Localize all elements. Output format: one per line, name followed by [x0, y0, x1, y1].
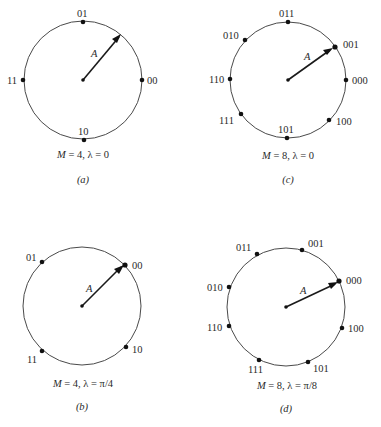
symbol-point-000: [344, 78, 349, 83]
symbol-label: 11: [7, 75, 17, 86]
symbol-point-11: [40, 349, 45, 354]
symbol-point-10: [82, 138, 87, 143]
symbol-point-011: [255, 252, 260, 257]
panel-d: A 000 001 011 010 110 111 101 100 M = 8,…: [207, 238, 364, 415]
panel-caption: M = 4, λ = 0: [56, 149, 109, 160]
symbol-point-010: [227, 285, 232, 290]
symbol-point-010: [243, 38, 248, 43]
panel-tag: (a): [77, 174, 90, 186]
symbol-point-101: [285, 136, 290, 141]
symbol-point-00: [122, 262, 127, 267]
vector-label: A: [85, 283, 93, 294]
symbol-point-01: [81, 20, 86, 25]
symbol-label: 10: [78, 126, 89, 137]
symbol-label: 011: [279, 8, 294, 19]
vector-label: A: [299, 285, 307, 296]
symbol-point-000: [336, 278, 341, 283]
panel-c: A 000 001 011 010 110 111 101 100 M = 8,…: [209, 8, 368, 186]
symbol-point-011: [286, 20, 291, 25]
symbol-label: 110: [209, 74, 224, 85]
origin-dot: [81, 78, 85, 82]
symbol-point-101: [306, 360, 311, 365]
symbol-point-100: [327, 118, 332, 123]
panel-a: A 00 01 11 10 M = 4, λ = 0 (a): [7, 8, 158, 186]
symbol-label: 010: [207, 282, 223, 293]
origin-dot: [80, 304, 84, 308]
symbol-point-100: [340, 326, 345, 331]
symbol-point-001: [300, 248, 305, 253]
panel-tag: (b): [76, 401, 89, 413]
symbol-point-11: [21, 78, 26, 83]
panel-caption: M = 8, λ = 0: [261, 150, 314, 161]
panel-b: A 00 01 11 10 M = 4, λ = π/4 (b): [23, 247, 143, 413]
symbol-label: 10: [132, 344, 143, 355]
symbol-label: 100: [336, 116, 352, 127]
origin-dot: [286, 78, 290, 82]
symbol-label: 00: [147, 75, 158, 86]
symbol-label: 010: [223, 30, 239, 41]
symbol-label: 000: [346, 275, 362, 286]
panel-tag: (d): [280, 403, 293, 415]
symbol-label: 011: [236, 242, 251, 253]
symbol-point-01: [40, 260, 45, 265]
psk-constellation-figure: A 00 01 11 10 M = 4, λ = 0 (a) A 000 001…: [0, 0, 381, 427]
amplitude-vector: [83, 37, 119, 80]
symbol-point-110: [227, 324, 232, 329]
symbol-label: 01: [77, 8, 88, 19]
symbol-label: 001: [343, 39, 359, 50]
symbol-label: 100: [348, 323, 364, 334]
symbol-label: 111: [219, 115, 234, 126]
arrowhead-icon: [328, 282, 338, 289]
symbol-label: 111: [248, 364, 263, 375]
panel-caption: M = 8, λ = π/8: [256, 380, 317, 391]
symbol-point-111: [239, 112, 244, 117]
symbol-point-10: [124, 345, 129, 350]
panel-tag: (c): [282, 174, 294, 186]
symbol-label: 110: [207, 322, 222, 333]
vector-label: A: [90, 48, 98, 59]
arrowhead-icon: [112, 34, 121, 43]
vector-label: A: [303, 51, 311, 62]
symbol-label: 101: [278, 124, 294, 135]
symbol-label: 00: [132, 260, 143, 271]
symbol-point-111: [257, 358, 262, 363]
symbol-label: 11: [27, 354, 37, 365]
symbol-label: 01: [26, 252, 37, 263]
amplitude-vector: [286, 284, 335, 307]
symbol-label: 101: [313, 363, 329, 374]
panel-caption: M = 4, λ = π/4: [52, 378, 114, 389]
symbol-label: 000: [352, 75, 368, 86]
origin-dot: [284, 305, 288, 309]
symbol-label: 001: [308, 238, 324, 249]
symbol-point-001: [332, 44, 337, 49]
symbol-point-00: [140, 78, 145, 83]
symbol-point-110: [228, 77, 233, 82]
